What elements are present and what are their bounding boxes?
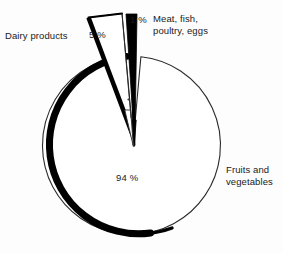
slice-value-fruits-and-vegetables: 94 % (116, 172, 138, 183)
slice-label-meat-line2: poultry, eggs (153, 25, 208, 36)
slice-label-fruits-line1: Fruits and (226, 164, 269, 175)
slice-label-meat-line1: Meat, fish, (153, 13, 198, 24)
pie-center-mark (127, 98, 129, 100)
slice-label-fruits-and-vegetables: Fruits andvegetables (226, 164, 273, 187)
slice-label-fruits-line2: vegetables (226, 176, 273, 187)
slice-value-meat-fish-poultry-eggs: 1 % (130, 14, 147, 25)
pie-chart: Dairy products Meat, fish,poultry, eggs … (0, 0, 283, 253)
slice-value-dairy-products: 5 % (89, 29, 106, 40)
slice-label-dairy-products: Dairy products (5, 30, 68, 42)
slice-label-meat-fish-poultry-eggs: Meat, fish,poultry, eggs (153, 13, 208, 36)
